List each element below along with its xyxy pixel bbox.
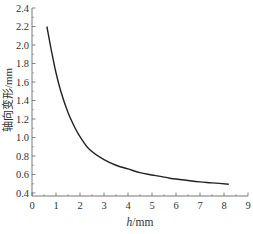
y-tick-label: 1.2 [16,114,29,125]
x-tick-label: 3 [101,200,106,211]
x-tick-label: 2 [77,200,82,211]
y-tick-label: 2.2 [16,21,29,32]
x-tick-label: 6 [173,200,178,211]
y-tick-label: 1.6 [16,77,29,88]
data-series [47,27,229,185]
y-axis-ticks: 0.40.60.81.01.21.41.61.82.02.22.4 [16,3,36,199]
x-axis-ticks: 0123456789 [29,193,250,212]
x-tick-label: 0 [29,200,34,211]
y-tick-label: 2.0 [16,40,29,51]
x-tick-label: 4 [125,200,131,211]
y-tick-label: 1.0 [16,132,29,143]
x-tick-label: 7 [197,200,202,211]
x-axis-label: h/mm [127,216,154,228]
x-tick-label: 9 [245,200,250,211]
chart: 0.40.60.81.01.21.41.61.82.02.22.4 012345… [0,0,253,234]
y-tick-label: 1.4 [16,95,30,106]
y-tick-label: 0.8 [16,151,29,162]
y-tick-label: 1.8 [16,58,29,69]
y-axis-label: 轴向变形/mm [1,67,14,132]
y-tick-label: 0.6 [16,169,29,180]
x-tick-label: 8 [221,200,226,211]
series-line [47,27,229,185]
y-tick-label: 0.4 [16,188,30,199]
x-tick-label: 5 [149,200,154,211]
y-tick-label: 2.4 [16,3,30,14]
x-tick-label: 1 [53,200,58,211]
